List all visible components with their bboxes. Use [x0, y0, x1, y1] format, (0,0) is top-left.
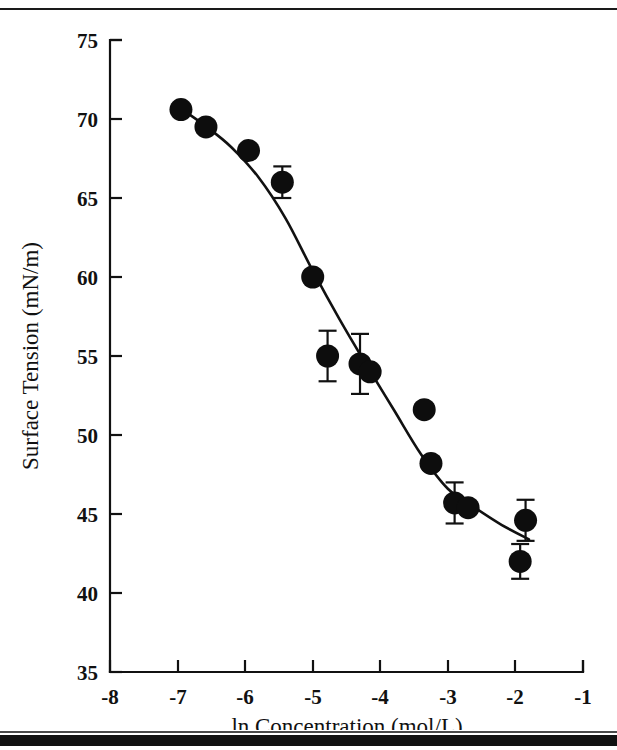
x-tick-label-neg7: -7: [169, 685, 187, 709]
y-tick-label-55: 55: [77, 345, 98, 369]
data-point-marker: [359, 360, 382, 383]
y-axis-title: Surface Tension (mN/m): [18, 242, 43, 470]
data-points-layer: [169, 98, 537, 579]
x-axis-title: ln Concentration (mol/L): [231, 714, 462, 730]
data-point-marker: [509, 550, 532, 573]
data-point-marker: [316, 345, 339, 368]
y-tick-label-65: 65: [77, 187, 98, 211]
page-canvas: 75 70 65 60 55 50 45 40 35: [0, 0, 617, 750]
data-point-group: [301, 266, 324, 289]
x-tick-label-neg5: -5: [304, 685, 322, 709]
y-ticks-group: [110, 40, 122, 672]
figure-container: 75 70 65 60 55 50 45 40 35: [0, 12, 617, 730]
x-tick-label-neg2: -2: [506, 685, 524, 709]
surface-tension-plot: 75 70 65 60 55 50 45 40 35: [0, 12, 617, 730]
data-point-group: [413, 398, 436, 421]
data-point-marker: [237, 139, 260, 162]
axes-group: [110, 40, 583, 672]
data-point-marker: [194, 115, 217, 138]
data-point-group: [316, 331, 339, 382]
x-tick-label-neg6: -6: [236, 685, 254, 709]
y-tick-label-45: 45: [77, 503, 98, 527]
y-tick-label-40: 40: [77, 582, 98, 606]
y-tick-label-70: 70: [77, 108, 98, 132]
data-point-group: [194, 115, 217, 138]
x-ticks-group: [110, 660, 583, 672]
x-tick-label-neg4: -4: [371, 685, 389, 709]
data-point-marker: [457, 496, 480, 519]
y-tick-labels-group: 75 70 65 60 55 50 45 40 35: [77, 29, 98, 685]
page-rule-top: [0, 8, 617, 10]
fit-curve-group: [178, 106, 529, 539]
page-rule-bottom-hairline: [0, 731, 617, 733]
data-point-group: [271, 166, 294, 198]
y-tick-label-75: 75: [77, 29, 98, 53]
data-point-group: [169, 98, 192, 121]
data-point-marker: [271, 171, 294, 194]
y-tick-label-60: 60: [77, 266, 98, 290]
fit-curve-path: [178, 106, 529, 539]
y-tick-label-35: 35: [77, 661, 98, 685]
data-point-marker: [169, 98, 192, 121]
data-point-group: [359, 360, 382, 383]
data-point-group: [237, 139, 260, 162]
data-point-marker: [514, 509, 537, 532]
x-tick-label-neg8: -8: [101, 685, 119, 709]
x-tick-label-neg1: -1: [574, 685, 592, 709]
data-point-group: [509, 544, 532, 579]
data-point-marker: [419, 452, 442, 475]
y-tick-label-50: 50: [77, 424, 98, 448]
data-point-group: [457, 496, 480, 519]
data-point-marker: [301, 266, 324, 289]
page-rule-bottom: [0, 735, 617, 746]
x-tick-labels-group: -8 -7 -6 -5 -4 -3 -2 -1: [101, 685, 592, 709]
data-point-marker: [413, 398, 436, 421]
data-point-group: [419, 452, 442, 475]
x-tick-label-neg3: -3: [439, 685, 457, 709]
